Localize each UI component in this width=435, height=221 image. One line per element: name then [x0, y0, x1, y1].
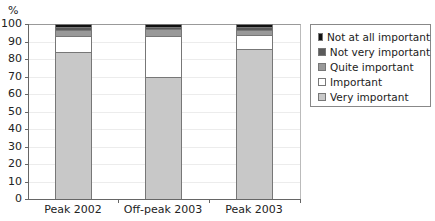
y-tick-label: 0	[0, 193, 22, 204]
y-tick-label: 90	[0, 36, 22, 47]
bar-segment-quite-important	[145, 29, 182, 36]
legend-label: Very important	[330, 91, 409, 103]
bar-segment-important	[55, 36, 92, 52]
bar-segment-important	[145, 36, 182, 76]
x-tick	[118, 199, 119, 203]
y-tick-label: 40	[0, 123, 22, 134]
legend: Not at all importantNot very importantQu…	[310, 24, 431, 107]
bar-segment-not-very-important	[236, 27, 273, 31]
bar-segment-not-very-important	[55, 27, 92, 31]
x-tick-label: Peak 2003	[209, 203, 299, 216]
bar-segment-not-at-all-important	[55, 24, 92, 27]
x-tick-label: Peak 2002	[28, 203, 118, 216]
legend-label: Not very important	[330, 46, 430, 58]
bar-segment-not-very-important	[145, 27, 182, 30]
bar-segment-important	[236, 35, 273, 50]
legend-swatch-icon	[318, 78, 326, 86]
legend-item: Not very important	[318, 44, 430, 59]
y-tick-label: 30	[0, 141, 22, 152]
legend-label: Quite important	[330, 61, 414, 73]
legend-item: Very important	[318, 89, 430, 104]
y-tick-label: 60	[0, 88, 22, 99]
bar-segment-not-at-all-important	[236, 24, 273, 27]
y-tick-label: 100	[0, 18, 22, 29]
y-tick-label: 70	[0, 71, 22, 82]
legend-swatch-icon	[318, 93, 326, 101]
legend-item: Not at all important	[318, 29, 430, 44]
y-tick-label: 50	[0, 106, 22, 117]
x-tick	[209, 199, 210, 203]
y-tick-label: 10	[0, 176, 22, 187]
y-axis-unit: %	[8, 4, 18, 17]
bar-segment-very-important	[145, 77, 182, 200]
y-tick-label: 20	[0, 158, 22, 169]
y-tick-label: 80	[0, 53, 22, 64]
legend-swatch-icon	[318, 63, 326, 71]
bar-segment-quite-important	[55, 30, 92, 36]
legend-item: Important	[318, 74, 430, 89]
legend-swatch-icon	[318, 33, 323, 41]
y-axis	[28, 24, 29, 200]
legend-swatch-icon	[318, 48, 326, 56]
legend-label: Not at all important	[327, 31, 430, 43]
legend-item: Quite important	[318, 59, 430, 74]
x-axis	[28, 199, 301, 200]
x-tick-label: Off-peak 2003	[118, 203, 208, 216]
bar-segment-very-important	[236, 49, 273, 199]
legend-label: Important	[330, 76, 382, 88]
bar-segment-quite-important	[236, 30, 273, 34]
bar-segment-not-at-all-important	[145, 24, 182, 27]
x-tick	[300, 199, 301, 203]
bar-segment-very-important	[55, 52, 92, 199]
